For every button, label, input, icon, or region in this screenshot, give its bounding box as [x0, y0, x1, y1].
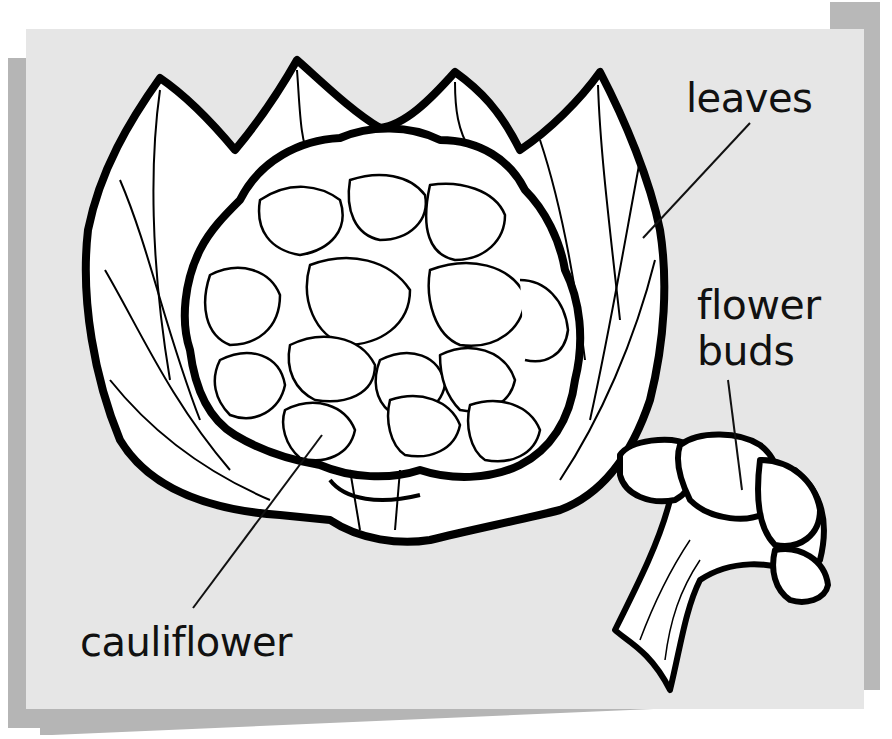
label-flower-buds-line1: flower [697, 282, 821, 328]
label-cauliflower: cauliflower [80, 622, 292, 662]
floret-piece [615, 434, 828, 690]
label-flower-buds: flower buds [697, 282, 821, 374]
label-flower-buds-line2: buds [697, 328, 821, 374]
label-leaves: leaves [686, 78, 812, 118]
leaves-leader-line [643, 123, 750, 238]
